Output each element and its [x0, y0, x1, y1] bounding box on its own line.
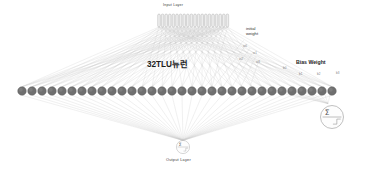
- initial-weight-line-2: weight: [246, 31, 258, 36]
- svg-text:Σ: Σ: [179, 142, 182, 147]
- neural-network-graphic: Σ Σ: [0, 0, 366, 172]
- weight-label: w2: [239, 57, 243, 61]
- svg-text:Σ: Σ: [325, 108, 330, 117]
- bias-label: b0: [283, 66, 286, 70]
- output-layer-node: Σ: [176, 140, 189, 153]
- hidden-layer-nodes: [18, 87, 337, 96]
- hidden-to-output-edges: [22, 95, 332, 140]
- weight-label: w3: [256, 60, 260, 64]
- weight-label: w1: [253, 51, 257, 55]
- input-layer-nodes: [158, 14, 229, 27]
- input-layer-label: Input Layer: [163, 4, 183, 8]
- bias-detail-tlu-node: Σ: [321, 106, 344, 129]
- bias-label: b1: [299, 72, 302, 76]
- output-layer-label: Output Layer: [166, 158, 191, 162]
- bias-label: b3: [336, 71, 339, 75]
- hidden-layer-title: 32TLU뉴런: [147, 61, 188, 69]
- initial-weight-annotation: initial weight: [246, 26, 258, 37]
- input-to-hidden-edges: [22, 27, 332, 87]
- bias-weight-annotation: Bias Weight: [296, 60, 326, 65]
- diagram-canvas: Σ Σ Input Layer 32TLU뉴런 Output Layer ini…: [0, 0, 366, 172]
- bias-label: b2: [317, 72, 320, 76]
- weight-label: w0: [243, 44, 247, 48]
